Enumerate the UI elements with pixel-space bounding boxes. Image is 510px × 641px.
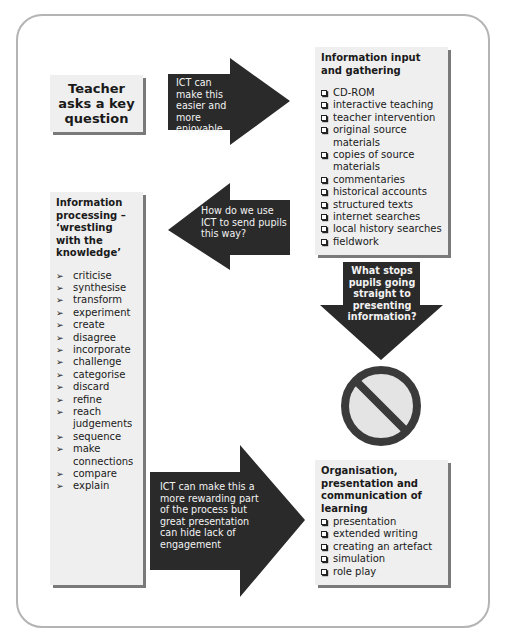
- list-item-label: historical accounts: [333, 186, 427, 197]
- list-item: ➢compare: [56, 468, 137, 480]
- list-item: ➢incorporate: [56, 344, 137, 356]
- list-item-label: incorporate: [73, 344, 131, 355]
- list-item: commentaries: [321, 174, 442, 186]
- list-item-label: extended writing: [333, 528, 418, 539]
- list-item: ➢challenge: [56, 356, 137, 368]
- list-item-label: CD-ROM: [333, 87, 375, 98]
- processing-box-title: Information processing – ‘wrestling with…: [56, 197, 137, 260]
- list-item: creating an artefact: [321, 541, 442, 553]
- teacher-question-box: Teacher asks a key question: [50, 75, 143, 132]
- list-item-label: copies of source materials: [333, 149, 414, 172]
- list-item-label: fieldwork: [333, 236, 379, 247]
- list-item-label: disagree: [73, 332, 116, 343]
- teacher-question-text: Teacher asks a key question: [50, 81, 143, 126]
- checkbox-icon: [321, 112, 331, 124]
- list-item-label: original source materials: [333, 124, 407, 147]
- list-item: local history searches: [321, 223, 442, 235]
- checkbox-icon: [321, 223, 331, 235]
- list-item: ➢create: [56, 319, 137, 331]
- list-item: teacher intervention: [321, 112, 442, 124]
- list-item: presentation: [321, 516, 442, 528]
- list-item-label: explain: [73, 480, 109, 491]
- arrowhead-icon: ➢: [56, 406, 66, 418]
- output-box-title: Organisation, presentation and communica…: [321, 465, 442, 515]
- arrowhead-icon: ➢: [56, 319, 66, 331]
- arrow-to-input-text: ICT can make this easier and more enjoya…: [176, 77, 236, 135]
- list-item: simulation: [321, 553, 442, 565]
- list-item: internet searches: [321, 211, 442, 223]
- checkbox-icon: [321, 199, 331, 211]
- arrowhead-icon: ➢: [56, 381, 66, 393]
- list-item: historical accounts: [321, 186, 442, 198]
- list-item: ➢sequence: [56, 431, 137, 443]
- list-item: copies of source materials: [321, 149, 442, 174]
- checkbox-icon: [321, 553, 331, 565]
- checkbox-icon: [321, 87, 331, 99]
- list-item-label: compare: [73, 468, 117, 479]
- list-item: ➢disagree: [56, 332, 137, 344]
- list-item: ➢discard: [56, 381, 137, 393]
- list-item-label: discard: [73, 381, 109, 392]
- list-item: ➢transform: [56, 294, 137, 306]
- list-item-label: interactive teaching: [333, 99, 433, 110]
- list-item-label: categorise: [73, 369, 125, 380]
- checkbox-icon: [321, 528, 331, 540]
- list-item: ➢synthesise: [56, 282, 137, 294]
- arrow-to-stop-text: What stops pupils going straight to pres…: [342, 265, 422, 323]
- checkbox-icon: [321, 211, 331, 223]
- list-item-label: criticise: [73, 270, 112, 281]
- checkbox-icon: [321, 186, 331, 198]
- checkbox-icon: [321, 124, 331, 136]
- list-item-label: local history searches: [333, 223, 442, 234]
- arrowhead-icon: ➢: [56, 294, 66, 306]
- list-item: ➢refine: [56, 394, 137, 406]
- list-item-label: teacher intervention: [333, 112, 435, 123]
- list-item-label: simulation: [333, 553, 385, 564]
- list-item: ➢make connections: [56, 443, 137, 468]
- list-item-label: challenge: [73, 356, 122, 367]
- list-item-label: creating an artefact: [333, 541, 432, 552]
- list-item-label: sequence: [73, 431, 121, 442]
- list-item: ➢explain: [56, 480, 137, 492]
- checkbox-icon: [321, 236, 331, 248]
- list-item: original source materials: [321, 124, 442, 149]
- arrowhead-icon: ➢: [56, 369, 66, 381]
- list-item: extended writing: [321, 528, 442, 540]
- list-item: ➢criticise: [56, 270, 137, 282]
- output-list: presentationextended writingcreating an …: [321, 516, 442, 578]
- list-item: ➢experiment: [56, 307, 137, 319]
- no-entry-icon: [345, 370, 417, 442]
- information-input-box: Information input and gathering CD-ROMin…: [315, 47, 448, 255]
- arrowhead-icon: ➢: [56, 480, 66, 492]
- checkbox-icon: [321, 174, 331, 186]
- list-item-label: structured texts: [333, 199, 413, 210]
- list-item-label: transform: [73, 294, 122, 305]
- arrowhead-icon: ➢: [56, 468, 66, 480]
- list-item-label: experiment: [73, 307, 130, 318]
- list-item: interactive teaching: [321, 99, 442, 111]
- list-item: structured texts: [321, 199, 442, 211]
- processing-list: ➢criticise➢synthesise➢transform➢experime…: [56, 270, 137, 493]
- information-processing-box: Information processing – ‘wrestling with…: [50, 192, 143, 585]
- arrowhead-icon: ➢: [56, 332, 66, 344]
- arrowhead-icon: ➢: [56, 307, 66, 319]
- list-item: ➢reach judgements: [56, 406, 137, 431]
- arrowhead-icon: ➢: [56, 344, 66, 356]
- list-item-label: create: [73, 319, 105, 330]
- list-item-label: synthesise: [73, 282, 126, 293]
- list-item-label: reach judgements: [73, 406, 132, 429]
- arrowhead-icon: ➢: [56, 270, 66, 282]
- list-item-label: commentaries: [333, 174, 405, 185]
- arrowhead-icon: ➢: [56, 431, 66, 443]
- organisation-output-box: Organisation, presentation and communica…: [315, 460, 448, 585]
- arrowhead-icon: ➢: [56, 282, 66, 294]
- list-item-label: refine: [73, 394, 102, 405]
- input-box-title: Information input and gathering: [321, 52, 442, 77]
- list-item-label: presentation: [333, 516, 396, 527]
- input-list: CD-ROMinteractive teachingteacher interv…: [321, 87, 442, 248]
- checkbox-icon: [321, 99, 331, 111]
- checkbox-icon: [321, 541, 331, 553]
- list-item-label: internet searches: [333, 211, 420, 222]
- arrowhead-icon: ➢: [56, 394, 66, 406]
- list-item: role play: [321, 566, 442, 578]
